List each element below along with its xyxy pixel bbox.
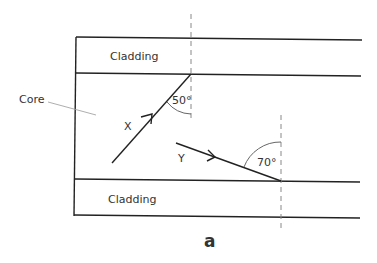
ray-x xyxy=(112,74,191,163)
ray-y-label: Y xyxy=(177,152,185,165)
angle-x-label: 50° xyxy=(172,94,192,107)
core-label: Core xyxy=(19,93,45,106)
angle-y-label: 70° xyxy=(257,156,277,169)
cladding-bottom-label: Cladding xyxy=(108,193,156,206)
fiber-left-edge xyxy=(74,37,76,216)
figure-label: a xyxy=(204,231,215,251)
cladding-top-label: Cladding xyxy=(110,50,158,63)
fiber-diagram: Cladding Cladding Core X Y 50° 70° a xyxy=(0,0,377,263)
ray-x-label: X xyxy=(124,120,132,133)
core-leader-line xyxy=(48,102,96,115)
